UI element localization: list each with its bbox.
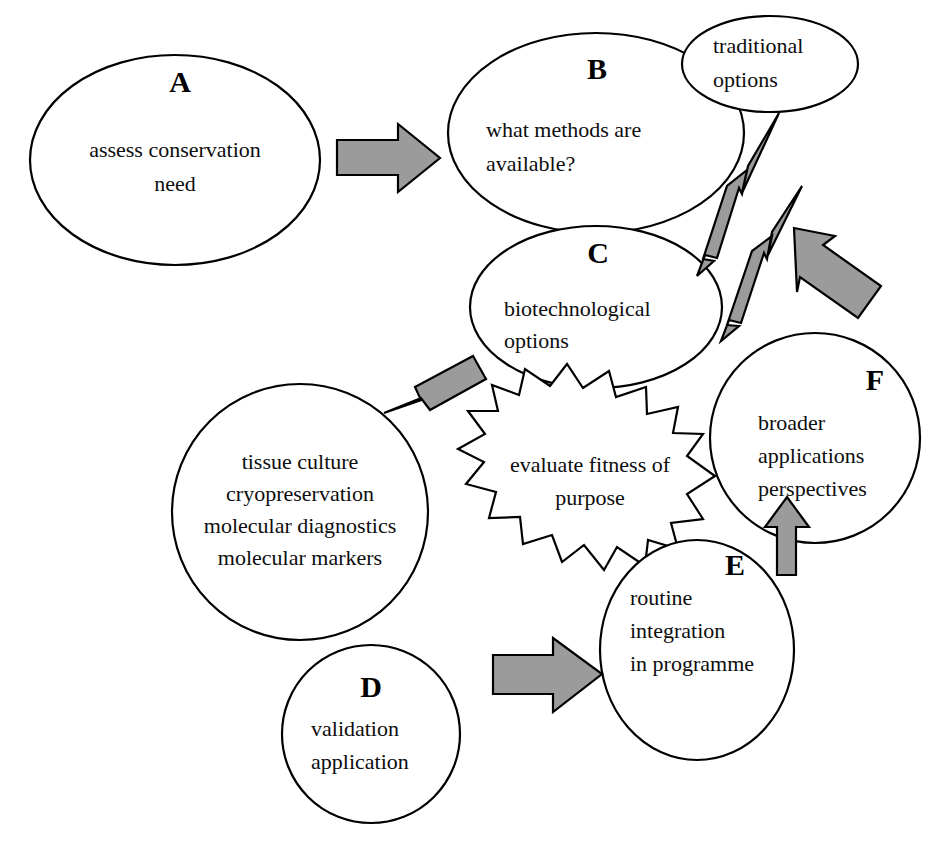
- arrow-feedback-up-left-shape: [794, 228, 881, 318]
- node-f-letter: F: [866, 363, 884, 396]
- node-c[interactable]: C biotechnological options: [470, 226, 722, 388]
- node-c-letter: C: [587, 236, 609, 269]
- node-c-line-2: options: [504, 328, 569, 353]
- node-e[interactable]: E routine integration in programme: [600, 540, 794, 760]
- node-d[interactable]: D validation application: [282, 645, 460, 823]
- node-traditional-options[interactable]: traditional options: [682, 16, 858, 112]
- node-methods-line-1: tissue culture: [242, 449, 359, 474]
- node-e-letter: E: [725, 548, 745, 581]
- diagram-canvas: A assess conservation need B what method…: [0, 0, 946, 843]
- node-d-line-1: validation: [311, 716, 399, 741]
- node-traditional-line-2: options: [713, 67, 778, 92]
- node-f-circle: [710, 333, 920, 543]
- node-a-line-2: need: [154, 171, 196, 196]
- arrow-c-to-methods-shape: [384, 356, 486, 413]
- arrow-a-to-b-shape: [337, 124, 440, 192]
- diagram-svg: A assess conservation need B what method…: [0, 0, 946, 843]
- node-e-line-2: integration: [630, 618, 725, 643]
- node-methods-line-3: molecular diagnostics: [204, 513, 396, 538]
- node-f-line-1: broader: [758, 410, 826, 435]
- node-b-line-1: what methods are: [486, 117, 641, 142]
- arrow-feedback-up-left[interactable]: [794, 228, 881, 318]
- node-evaluate-burst[interactable]: evaluate fitness of purpose: [458, 364, 715, 570]
- node-f-line-2: applications: [758, 443, 864, 468]
- node-d-letter: D: [360, 670, 382, 703]
- node-methods-line-2: cryopreservation: [226, 481, 374, 506]
- node-a-line-1: assess conservation: [89, 137, 261, 162]
- arrow-d-to-e[interactable]: [493, 638, 602, 712]
- arrow-a-to-b[interactable]: [337, 124, 440, 192]
- node-methods[interactable]: tissue culture cryopreservation molecula…: [172, 384, 428, 640]
- node-traditional-options-ellipse: [682, 16, 858, 112]
- node-b-line-2: available?: [486, 151, 575, 176]
- node-f[interactable]: F broader applications perspectives: [710, 333, 920, 543]
- node-a[interactable]: A assess conservation need: [30, 55, 320, 265]
- node-traditional-line-1: traditional: [713, 33, 803, 58]
- node-e-line-3: in programme: [630, 651, 754, 676]
- node-methods-line-4: molecular markers: [218, 545, 382, 570]
- node-d-line-2: application: [311, 749, 409, 774]
- node-methods-circle: [172, 384, 428, 640]
- node-b-letter: B: [587, 52, 607, 85]
- node-e-line-1: routine: [630, 585, 692, 610]
- node-evaluate-line-2: purpose: [555, 485, 625, 510]
- node-e-ellipse: [600, 540, 794, 760]
- figure-caption: [0, 829, 946, 843]
- node-c-line-1: biotechnological: [504, 296, 651, 321]
- node-evaluate-line-1: evaluate fitness of: [510, 452, 671, 477]
- node-a-letter: A: [169, 65, 191, 98]
- node-f-line-3: perspectives: [758, 476, 867, 501]
- arrow-c-to-methods[interactable]: [384, 356, 486, 413]
- arrow-d-to-e-shape: [493, 638, 602, 712]
